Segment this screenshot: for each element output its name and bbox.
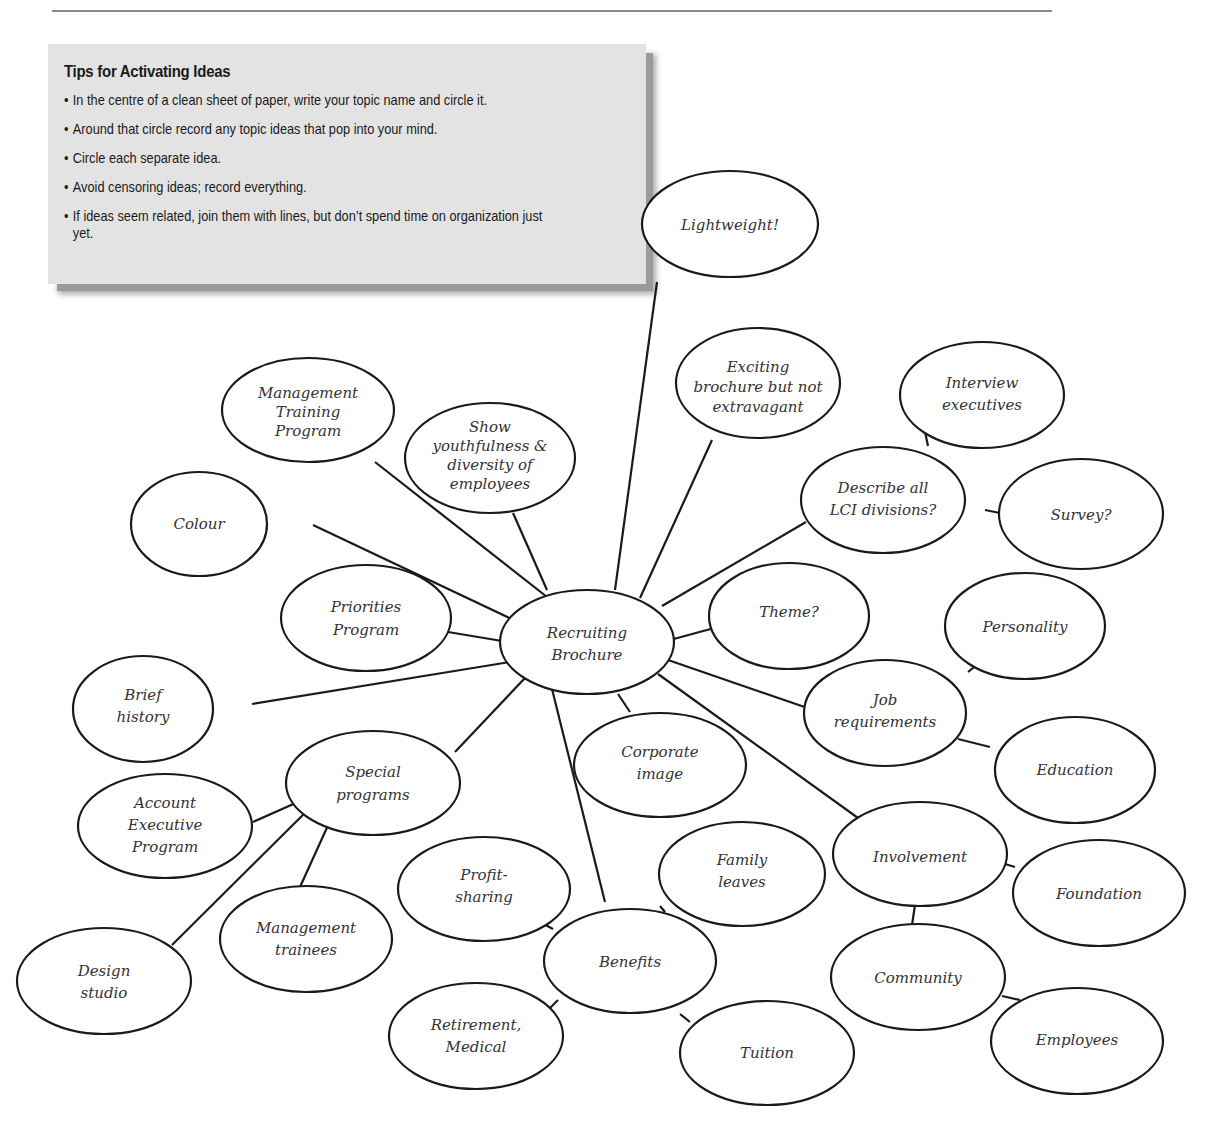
node-benefits: Benefits [544,909,716,1013]
node-label: Involvement [872,848,968,866]
node-label: leaves [718,873,766,891]
node-label: Survey? [1051,506,1113,524]
node-label: Program [131,838,198,856]
node-label: Describe all [837,479,929,497]
node-lightweight: Lightweight! [642,171,818,277]
node-design-studio: Design studio [17,928,191,1034]
node-label: history [117,708,170,726]
node-colour: Colour [131,472,267,576]
node-label: Training [276,403,341,421]
node-label: Colour [173,515,225,533]
node-corporate-image: Corporate image [574,713,746,817]
node-label: Theme? [759,603,820,621]
node-label: Management [257,384,359,402]
node-recruiting-brochure: Recruiting Brochure [500,590,674,694]
node-label: extravagant [712,398,804,416]
node-label: Retirement, [430,1016,522,1034]
node-retirement-medical: Retirement, Medical [389,983,563,1089]
node-label: studio [81,984,128,1002]
node-label: Special [345,763,401,781]
node-job-requirements: Job requirements [804,660,966,766]
node-label: Recruiting [546,624,627,642]
node-label: Priorities [330,598,402,616]
node-label: Family [716,851,768,869]
node-label: Community [874,969,962,987]
node-label: Show [469,418,511,436]
node-community: Community [831,924,1005,1030]
node-label: youthfulness & [432,437,548,455]
node-label: Foundation [1055,885,1142,903]
node-label: Lightweight! [680,216,779,234]
node-label: sharing [455,888,513,906]
node-label: Employees [1035,1031,1119,1049]
node-family-leaves: Family leaves [659,822,825,926]
node-label: Education [1035,761,1113,779]
node-label: Brochure [551,646,623,664]
node-describe-lci-divisions: Describe all LCI divisions? [801,447,965,553]
node-label: Benefits [598,953,661,971]
node-label: Executive [127,816,203,834]
node-label: Medical [445,1038,507,1056]
node-label: Profit- [459,866,507,884]
node-tuition: Tuition [680,1001,854,1105]
node-label: image [637,765,684,783]
node-interview-executives: Interview executives [900,342,1064,448]
node-involvement: Involvement [833,802,1007,906]
node-label: Tuition [740,1044,794,1062]
node-label: executives [942,396,1022,414]
node-priorities-program: Priorities Program [281,565,451,671]
node-label: Management [255,919,357,937]
node-label: LCI divisions? [829,501,938,519]
node-survey: Survey? [999,459,1163,569]
node-label: Brief [123,686,164,704]
node-label: brochure but not [693,378,823,396]
node-management-training-program: Management Training Program [222,358,394,462]
node-label: Job [870,691,898,709]
node-label: Exciting [726,358,790,376]
node-profit-sharing: Profit- sharing [398,837,570,941]
node-label: Program [274,422,341,440]
node-show-youthfulness: Show youthfulness & diversity of employe… [405,403,575,513]
node-label: Interview [945,374,1019,392]
node-management-trainees: Management trainees [220,886,392,992]
node-education: Education [995,717,1155,823]
node-label: diversity of [447,456,535,474]
node-label: Program [332,621,399,639]
node-exciting-brochure: Exciting brochure but not extravagant [676,328,840,438]
node-theme: Theme? [709,563,869,669]
mind-map: Recruiting Brochure Lightweight! Excitin… [0,0,1219,1142]
node-foundation: Foundation [1013,840,1185,946]
node-special-programs: Special programs [286,731,460,835]
node-label: trainees [275,941,337,959]
node-label: Design [77,962,131,980]
node-label: employees [450,475,531,493]
node-personality: Personality [945,573,1105,679]
node-label: Account [132,794,197,812]
node-employees: Employees [991,988,1163,1094]
node-label: programs [336,786,410,804]
node-label: Personality [982,618,1068,636]
node-label: requirements [834,713,937,731]
node-brief-history: Brief history [73,656,213,762]
node-account-executive-program: Account Executive Program [78,774,252,878]
node-label: Corporate [621,743,698,761]
